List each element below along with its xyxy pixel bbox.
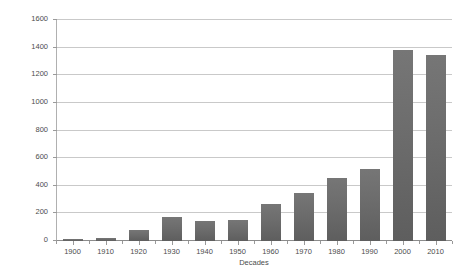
- x-axis-title: Decades: [56, 258, 452, 268]
- x-minor-tick: [254, 241, 255, 244]
- bar-1970: [294, 20, 314, 241]
- x-minor-tick: [320, 241, 321, 244]
- x-tick-mark-1970: [304, 241, 305, 245]
- bars-layer: [56, 20, 452, 241]
- x-tick-mark-1940: [205, 241, 206, 245]
- x-tick-mark-2000: [403, 241, 404, 245]
- x-tick-mark-1910: [106, 241, 107, 245]
- x-minor-tick: [287, 241, 288, 244]
- x-tick-mark-1950: [238, 241, 239, 245]
- bar-chart: Publications 190019101920193019401950196…: [0, 0, 474, 277]
- x-tick-mark-1900: [73, 241, 74, 245]
- y-tick-label: 1200: [4, 70, 48, 78]
- x-minor-tick: [89, 241, 90, 244]
- bar-1960: [261, 20, 281, 241]
- x-minor-tick: [122, 241, 123, 244]
- bar-1990: [360, 20, 380, 241]
- x-tick-mark-1920: [139, 241, 140, 245]
- y-tick-label: 400: [4, 181, 48, 189]
- bar-rect-1920: [129, 230, 149, 241]
- x-minor-tick: [221, 241, 222, 244]
- bar-rect-1950: [228, 220, 248, 241]
- x-tick-mark-1960: [271, 241, 272, 245]
- bar-rect-1980: [327, 178, 347, 241]
- y-tick-label: 200: [4, 208, 48, 216]
- bar-2000: [393, 20, 413, 241]
- x-minor-tick: [155, 241, 156, 244]
- x-minor-tick: [188, 241, 189, 244]
- y-tick-label: 600: [4, 153, 48, 161]
- x-minor-tick: [353, 241, 354, 244]
- x-minor-tick: [452, 241, 453, 244]
- bar-1940: [195, 20, 215, 241]
- x-minor-tick: [56, 241, 57, 244]
- bar-1910: [96, 20, 116, 241]
- y-axis-title-label: Publications: [0, 0, 16, 16]
- y-tick-label: 0: [4, 236, 48, 244]
- bar-1930: [162, 20, 182, 241]
- bar-1980: [327, 20, 347, 241]
- y-tick-label: 1600: [4, 15, 48, 23]
- x-tick-label-2010: 2010: [416, 247, 456, 256]
- bar-rect-2010: [426, 55, 446, 241]
- y-axis-title: Publications: [0, 0, 16, 16]
- x-tick-mark-2010: [436, 241, 437, 245]
- bar-1950: [228, 20, 248, 241]
- bar-rect-1960: [261, 204, 281, 241]
- bar-rect-1940: [195, 221, 215, 241]
- bar-rect-1930: [162, 217, 182, 241]
- bar-2010: [426, 20, 446, 241]
- x-minor-tick: [386, 241, 387, 244]
- y-tick-label: 1000: [4, 98, 48, 106]
- bar-rect-1970: [294, 193, 314, 241]
- bar-rect-1990: [360, 169, 380, 241]
- x-minor-tick: [419, 241, 420, 244]
- x-tick-mark-1990: [370, 241, 371, 245]
- y-tick-label: 1400: [4, 43, 48, 51]
- x-tick-mark-1980: [337, 241, 338, 245]
- x-tick-mark-1930: [172, 241, 173, 245]
- bar-1900: [63, 20, 83, 241]
- y-tick-label: 800: [4, 126, 48, 134]
- bar-1920: [129, 20, 149, 241]
- bar-rect-2000: [393, 50, 413, 241]
